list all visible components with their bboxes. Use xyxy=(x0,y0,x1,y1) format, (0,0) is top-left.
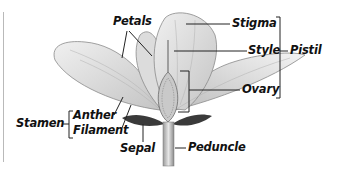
label-style: Style xyxy=(248,45,280,57)
label-stigma: Stigma xyxy=(232,18,277,30)
peduncle-stem xyxy=(163,122,174,166)
label-pistil: Pistil xyxy=(290,45,321,57)
label-peduncle: Peduncle xyxy=(188,142,245,154)
flower-illustration xyxy=(0,0,339,170)
label-stamen: Stamen xyxy=(16,118,64,130)
label-filament: Filament xyxy=(73,125,128,137)
label-petals: Petals xyxy=(113,16,152,28)
label-sepal: Sepal xyxy=(120,143,155,155)
label-ovary: Ovary xyxy=(242,84,279,96)
right-sepal xyxy=(172,114,212,125)
label-anther: Anther xyxy=(73,110,116,122)
